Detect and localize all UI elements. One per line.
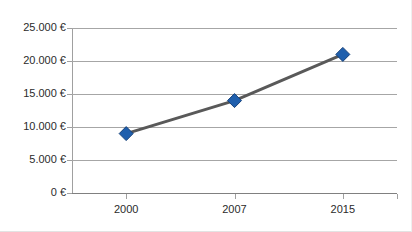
y-axis-tick [67, 94, 72, 95]
x-axis-label: 2007 [200, 203, 270, 215]
y-axis-tick [67, 61, 72, 62]
y-axis-tick [67, 28, 72, 29]
x-axis-tick [343, 194, 344, 199]
y-axis-tick [67, 160, 72, 161]
data-series-layer [0, 0, 412, 232]
x-axis-label: 2000 [91, 203, 161, 215]
y-axis-tick [67, 127, 72, 128]
y-axis-tick [67, 193, 72, 194]
data-point-marker [336, 47, 350, 61]
x-axis-end-tick [397, 194, 398, 199]
data-point-marker [119, 127, 133, 141]
x-axis-tick [235, 194, 236, 199]
x-axis-label: 2015 [308, 203, 378, 215]
x-axis-tick [126, 194, 127, 199]
line-chart: 25.000 €20.000 €15.000 €10.000 €5.000 €0… [0, 0, 412, 232]
data-point-marker [228, 94, 242, 108]
